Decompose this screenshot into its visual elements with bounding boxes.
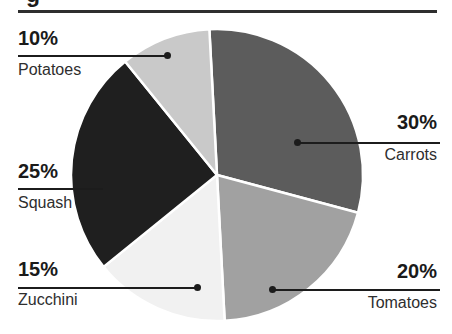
leader-line-potatoes [18, 55, 168, 57]
leader-line-carrots [298, 142, 440, 144]
category-label-potatoes: Potatoes [18, 62, 81, 78]
percent-label-squash: 25% [18, 161, 58, 181]
pie-chart [0, 0, 452, 334]
category-label-tomatoes: Tomatoes [368, 295, 437, 311]
percent-label-zucchini: 15% [18, 259, 58, 279]
leader-dot-zucchini [194, 284, 201, 291]
leader-line-zucchini [18, 287, 198, 289]
leader-line-tomatoes [273, 289, 440, 291]
category-label-zucchini: Zucchini [18, 292, 78, 308]
chart-canvas: g 30% Carrots 20% Tomatoes 15% Zucchini … [0, 0, 452, 334]
leader-dot-carrots [294, 139, 301, 146]
percent-label-carrots: 30% [397, 112, 437, 132]
leader-dot-tomatoes [269, 286, 276, 293]
leader-line-squash [18, 188, 103, 190]
category-label-carrots: Carrots [385, 147, 437, 163]
percent-label-potatoes: 10% [18, 28, 58, 48]
percent-label-tomatoes: 20% [397, 261, 437, 281]
category-label-squash: Squash [18, 195, 72, 211]
leader-dot-potatoes [164, 52, 171, 59]
